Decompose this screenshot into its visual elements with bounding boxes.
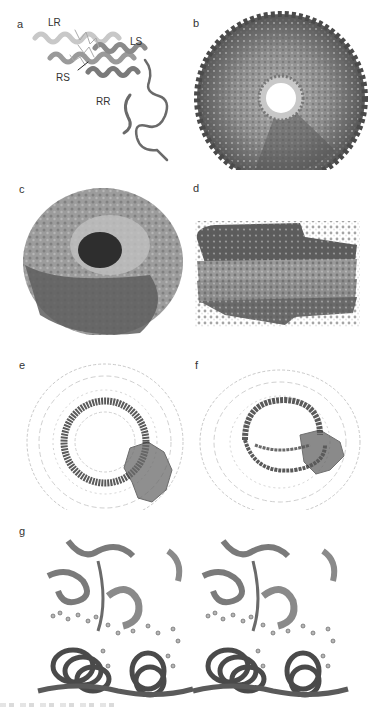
panel-label-f: f [195, 359, 198, 371]
panel-b: b [185, 0, 374, 170]
panel-label-c: c [19, 183, 25, 195]
panel-label-a: a [17, 18, 23, 30]
panel-c: c [0, 165, 190, 335]
panel-label-b: b [193, 17, 199, 29]
stereo-right-image [193, 541, 348, 696]
helix-label-ls: LS [130, 36, 142, 47]
spiral-trace-tilted-view [185, 330, 374, 510]
panel-g: g [0, 505, 374, 700]
helix-label-rr: RR [96, 96, 110, 107]
ribbon-structure-a [0, 0, 190, 165]
stereo-left-image [38, 541, 193, 696]
ring-trace-top-view [0, 330, 190, 510]
panel-f: f [185, 330, 374, 510]
caption-text-illegible [0, 703, 120, 707]
panel-d: d [185, 165, 374, 335]
spiral-surface-tilted-view [0, 165, 190, 335]
panel-e: e [0, 330, 190, 510]
panel-label-d: d [193, 182, 199, 194]
helix-label-rs: RS [56, 72, 70, 83]
helix-label-lr: LR [48, 17, 61, 28]
stacked-assembly-side-view [185, 165, 374, 335]
panel-label-e: e [19, 359, 25, 371]
panel-a: a LR LS RS RR [0, 0, 190, 165]
stereo-pair-binding-site [0, 505, 374, 700]
ring-surface-top-view [185, 0, 374, 170]
